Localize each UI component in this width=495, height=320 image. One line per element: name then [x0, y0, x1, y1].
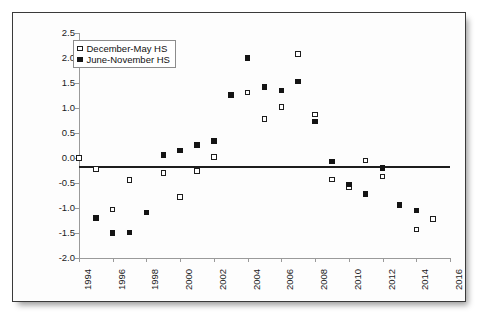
y-tick-label: -1.5: [45, 228, 75, 238]
x-tick-mark: [146, 258, 147, 262]
data-point: [245, 90, 251, 96]
y-tick-label-wrap: -1.0: [40, 203, 75, 213]
data-point: [329, 177, 335, 183]
data-point: [177, 194, 183, 200]
legend-label: December-May HS: [87, 44, 168, 54]
x-tick-label: 2004: [252, 269, 262, 290]
data-point: [144, 210, 150, 216]
open-square-marker-icon: [77, 46, 83, 52]
y-tick-label: 0.0: [45, 153, 75, 163]
x-tick-mark: [180, 258, 181, 262]
data-point: [262, 116, 268, 122]
data-point: [228, 92, 234, 98]
y-tick-label: 2.5: [45, 28, 75, 38]
y-tick-label: -1.0: [45, 203, 75, 213]
y-tick-label-wrap: 1.0: [40, 103, 75, 113]
data-point: [211, 138, 217, 144]
chart-scene: -2.0-1.5-1.0-0.50.00.51.01.52.02.5 19941…: [0, 0, 495, 320]
data-point: [161, 170, 167, 176]
legend-item-december-may: December-May HS: [77, 43, 170, 54]
data-point: [430, 216, 436, 222]
y-tick-label-wrap: -0.5: [40, 178, 75, 188]
data-point: [279, 88, 285, 94]
zero-reference-line: [79, 166, 450, 168]
x-tick-mark: [383, 258, 384, 262]
y-tick-label-wrap: 0.5: [40, 128, 75, 138]
y-tick-mark: [75, 133, 79, 134]
data-point: [279, 104, 285, 110]
x-axis-line: [79, 258, 450, 259]
x-tick-mark: [450, 258, 451, 262]
y-tick-label-wrap: 0.0: [40, 153, 75, 163]
y-tick-mark: [75, 183, 79, 184]
data-point: [93, 215, 99, 221]
data-point: [110, 207, 116, 213]
data-point: [127, 230, 133, 236]
data-point: [161, 152, 167, 158]
x-tick-label: 2008: [319, 269, 329, 290]
data-point: [414, 208, 420, 214]
data-point: [177, 148, 183, 154]
x-tick-label: 2010: [353, 269, 363, 290]
y-tick-mark: [75, 108, 79, 109]
data-point: [110, 230, 116, 236]
chart-legend: December-May HS June-November HS: [73, 40, 176, 68]
x-tick-mark: [315, 258, 316, 262]
data-point: [363, 191, 369, 197]
data-point: [245, 55, 251, 61]
data-point: [414, 227, 420, 233]
x-tick-label: 1998: [150, 269, 160, 290]
y-tick-label-wrap: 2.5: [40, 28, 75, 38]
data-point: [76, 155, 82, 161]
data-point: [211, 154, 217, 160]
x-tick-label: 1996: [117, 269, 127, 290]
y-tick-mark: [75, 208, 79, 209]
y-tick-label-wrap: 2.0: [40, 53, 75, 63]
y-tick-label: -0.5: [45, 178, 75, 188]
data-point: [262, 84, 268, 90]
y-tick-mark: [75, 33, 79, 34]
x-tick-mark: [79, 258, 80, 262]
y-tick-label-wrap: 1.5: [40, 78, 75, 88]
x-tick-mark: [248, 258, 249, 262]
y-tick-label: 2.0: [45, 53, 75, 63]
plot-area: -2.0-1.5-1.0-0.50.00.51.01.52.02.5 19941…: [0, 0, 495, 320]
legend-item-june-november: June-November HS: [77, 54, 170, 65]
x-tick-mark: [416, 258, 417, 262]
filled-square-marker-icon: [77, 57, 83, 63]
y-tick-mark: [75, 83, 79, 84]
x-tick-mark: [214, 258, 215, 262]
data-point: [380, 165, 386, 171]
data-point: [93, 166, 99, 172]
data-point: [312, 119, 318, 125]
x-tick-mark: [281, 258, 282, 262]
data-point: [363, 158, 369, 164]
data-point: [295, 79, 301, 85]
data-point: [346, 182, 352, 188]
data-point: [194, 142, 200, 148]
x-tick-mark: [349, 258, 350, 262]
data-point: [127, 177, 133, 183]
data-point: [295, 51, 301, 57]
y-tick-label: 1.0: [45, 103, 75, 113]
x-tick-label: 2000: [184, 269, 194, 290]
data-point: [194, 168, 200, 174]
y-tick-label-wrap: -1.5: [40, 228, 75, 238]
x-tick-mark: [113, 258, 114, 262]
x-tick-label: 2014: [420, 269, 430, 290]
x-tick-label: 1994: [83, 269, 93, 290]
x-tick-label: 2012: [387, 269, 397, 290]
y-tick-label: 0.5: [45, 128, 75, 138]
x-tick-label: 2002: [218, 269, 228, 290]
data-point: [380, 174, 386, 180]
data-point: [397, 202, 403, 208]
y-tick-label-wrap: -2.0: [40, 253, 75, 263]
data-point: [312, 112, 318, 118]
y-tick-mark: [75, 233, 79, 234]
y-tick-label: 1.5: [45, 78, 75, 88]
legend-label: June-November HS: [87, 55, 170, 65]
y-tick-label: -2.0: [45, 253, 75, 263]
data-point: [329, 159, 335, 165]
x-tick-label: 2006: [285, 269, 295, 290]
x-tick-label: 2016: [454, 269, 464, 290]
